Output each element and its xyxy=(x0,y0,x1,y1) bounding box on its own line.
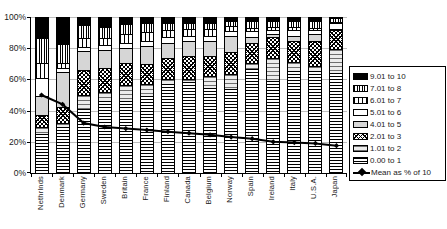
y-axis-tick-label: 0% xyxy=(14,169,26,177)
legend-swatch-crosshatch xyxy=(353,133,368,140)
legend-item: 4.01 to 5 xyxy=(353,118,443,130)
stacked-bar-chart: 0%20%40%60%80%100% NethrlndsDenmarkGerma… xyxy=(0,0,447,229)
mean-line-marker xyxy=(313,141,318,146)
x-axis-label: Sweden xyxy=(93,176,114,228)
mean-line-legend-marker xyxy=(353,168,370,177)
legend-item: 9.01 to 10 xyxy=(353,70,443,82)
x-axis-label: Spain xyxy=(241,176,262,228)
legend-item: 7.01 to 8 xyxy=(353,82,443,94)
legend-swatch-gray xyxy=(353,121,368,128)
y-axis-tick-label: 40% xyxy=(9,107,26,115)
x-axis-label: Italy xyxy=(283,176,304,228)
legend-label: 6.01 to 7 xyxy=(370,96,401,105)
legend-item: 1.01 to 2 xyxy=(353,142,443,154)
x-axis-label: Norway xyxy=(220,176,241,228)
legend-swatch-white xyxy=(353,109,368,116)
y-axis-tick-label: 60% xyxy=(9,75,26,83)
plot-area xyxy=(30,17,347,174)
legend-label: 0.00 to 1 xyxy=(370,156,401,165)
mean-line-marker xyxy=(207,132,212,137)
legend-label: 2.01 to 3 xyxy=(370,132,401,141)
legend-item: 2.01 to 3 xyxy=(353,130,443,142)
x-axis-label-text: Canada xyxy=(184,176,192,203)
legend-label: 4.01 to 5 xyxy=(370,120,401,129)
mean-line-marker xyxy=(165,129,170,134)
x-axis-label-text: Britain xyxy=(121,176,129,199)
mean-line-marker xyxy=(334,143,339,148)
x-axis-label: Japan xyxy=(325,176,346,228)
x-axis-label: U.S.A. xyxy=(304,176,325,228)
legend-item: 5.01 to 6 xyxy=(353,106,443,118)
mean-line-marker xyxy=(186,131,191,136)
x-axis-label-text: Nethrlnds xyxy=(37,176,45,210)
legend-label: 9.01 to 10 xyxy=(370,72,406,81)
mean-line-marker xyxy=(102,124,107,129)
legend-label: Mean as % of 10 xyxy=(371,168,431,177)
mean-line-marker xyxy=(250,136,255,141)
x-axis-tick xyxy=(346,173,347,177)
x-axis-labels: NethrlndsDenmarkGermanySwedenBritainFran… xyxy=(30,176,346,228)
x-axis-label-text: U.S.A. xyxy=(310,176,318,199)
legend-swatch-h-sparse xyxy=(353,145,368,152)
legend-swatch-solid-black xyxy=(353,73,368,80)
y-axis-tick-label: 100% xyxy=(4,13,26,21)
legend-swatch-h-dense xyxy=(353,157,368,164)
x-axis-label: Canada xyxy=(177,176,198,228)
x-axis-label-text: France xyxy=(142,176,150,201)
x-axis-label-text: Belgium xyxy=(205,176,213,205)
legend-item: 6.01 to 7 xyxy=(353,94,443,106)
x-axis-label: Ireland xyxy=(262,176,283,228)
legend-item: Mean as % of 10 xyxy=(353,166,443,178)
x-axis-label: Finland xyxy=(156,176,177,228)
legend-label: 7.01 to 8 xyxy=(370,84,401,93)
x-axis-label-text: Italy xyxy=(289,176,297,191)
legend-item: 0.00 to 1 xyxy=(353,154,443,166)
legend-diamond-marker xyxy=(358,168,366,176)
y-axis-tick-label: 80% xyxy=(9,44,26,52)
mean-line-marker xyxy=(229,135,234,140)
x-axis-label: Denmark xyxy=(51,176,72,228)
mean-line-marker xyxy=(292,140,297,145)
mean-line xyxy=(31,17,347,173)
legend-label: 5.01 to 6 xyxy=(370,108,401,117)
x-axis-label: Belgium xyxy=(199,176,220,228)
x-axis-label-text: Japan xyxy=(331,176,339,197)
mean-line-marker xyxy=(123,126,128,131)
y-axis-tick-label: 20% xyxy=(9,138,26,146)
legend-swatch-v-sparse xyxy=(353,97,368,104)
mean-line-marker xyxy=(271,139,276,144)
x-axis-label-text: Denmark xyxy=(58,176,66,208)
mean-line-marker xyxy=(144,128,149,133)
x-axis-label: France xyxy=(135,176,156,228)
x-axis-label-text: Spain xyxy=(247,176,255,196)
x-axis-label-text: Norway xyxy=(226,176,234,203)
legend-label: 1.01 to 2 xyxy=(370,144,401,153)
x-axis-label-text: Sweden xyxy=(100,176,108,204)
x-axis-label: Nethrlnds xyxy=(30,176,51,228)
x-axis-label-text: Ireland xyxy=(268,176,276,200)
x-axis-label: Britain xyxy=(114,176,135,228)
y-axis-labels: 0%20%40%60%80%100% xyxy=(0,17,27,173)
legend-swatch-v-dense xyxy=(353,85,368,92)
legend: 9.01 to 107.01 to 86.01 to 75.01 to 64.0… xyxy=(349,66,446,181)
x-axis-label: Germany xyxy=(72,176,93,228)
mean-line-path xyxy=(42,95,337,146)
x-axis-label-text: Finland xyxy=(163,176,171,202)
x-axis-label-text: Germany xyxy=(79,176,87,208)
